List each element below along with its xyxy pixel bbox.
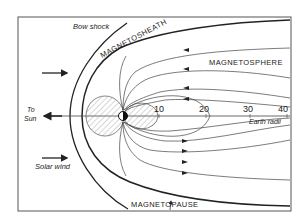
tick-10: 10 (154, 104, 164, 114)
label-to: To (27, 106, 35, 113)
label-magnetosphere: MAGNETOSPHERE (209, 58, 283, 67)
tick-40: 40 (278, 104, 288, 114)
magnetosphere-diagram: Bow shock MAGNETOSHEATH MAGNETOSPHERE MA… (0, 0, 305, 223)
tick-20: 20 (199, 104, 209, 114)
label-bow-shock: Bow shock (73, 22, 111, 31)
label-solar-wind: Solar wind (35, 162, 71, 171)
label-sun: Sun (24, 115, 37, 122)
label-earth-radii: Earth radii (249, 118, 281, 125)
tick-30: 30 (243, 104, 253, 114)
label-magnetopause: MAGNETOPAUSE (131, 200, 198, 209)
